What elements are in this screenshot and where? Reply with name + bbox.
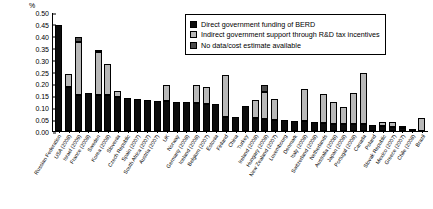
bar-segment-indirect: [360, 73, 367, 124]
bar-segment-indirect: [271, 99, 278, 120]
legend-swatch-indirect-icon: [190, 31, 197, 38]
y-axis-tick-label: 0.45: [35, 21, 53, 28]
legend-item-indirect: Indirect government support through R&D …: [190, 30, 380, 39]
bar-segment-indirect: [252, 100, 259, 118]
chart-legend: Direct government funding of BERD Indire…: [185, 14, 386, 55]
legend-label-nodata: No data/cost estimate available: [201, 41, 301, 50]
bar-chart: % 0.500.450.400.350.300.250.200.150.100.…: [0, 0, 433, 209]
bar-segment-direct: [301, 121, 308, 131]
bar-segment-indirect: [104, 64, 111, 95]
bar-segment-direct: [330, 124, 337, 131]
bar-stack: [85, 93, 92, 131]
y-axis-tick-label: 0.25: [35, 69, 53, 76]
bar-segment-direct: [55, 25, 62, 131]
bar-segment-direct: [154, 101, 161, 131]
bar-group: [64, 13, 74, 131]
y-axis-tick-label: 0.40: [35, 33, 53, 40]
y-axis-tick-label: 0.20: [35, 81, 53, 88]
bar-segment-direct: [124, 98, 131, 131]
bar-segment-direct: [271, 120, 278, 131]
bar-segment-direct: [340, 124, 347, 131]
bar-group: [142, 13, 152, 131]
bar-segment-indirect: [75, 42, 82, 96]
bar-segment-indirect: [261, 92, 268, 119]
legend-item-direct: Direct government funding of BERD: [190, 20, 380, 29]
bar-stack: [193, 85, 200, 131]
bar-segment-indirect: [340, 107, 347, 125]
bar-segment-indirect: [418, 118, 425, 131]
bar-segment-direct: [222, 117, 229, 131]
bar-segment-direct: [203, 104, 210, 131]
bar-stack: [154, 101, 161, 131]
bar-segment-direct: [193, 103, 200, 131]
bar-stack: [291, 121, 298, 131]
bar-stack: [252, 100, 259, 131]
legend-label-indirect: Indirect government support through R&D …: [201, 30, 380, 39]
bar-stack: [340, 107, 347, 132]
bar-segment-direct: [281, 120, 288, 131]
bar-segment-direct: [75, 95, 82, 131]
y-axis-tick-label: 0.30: [35, 57, 53, 64]
bar-group: [123, 13, 133, 131]
bar-segment-direct: [95, 95, 102, 131]
bar-group: [113, 13, 123, 131]
bar-stack: [144, 100, 151, 131]
bar-stack: [55, 25, 62, 131]
bar-group: [93, 13, 103, 131]
bar-segment-indirect: [350, 93, 357, 124]
bar-stack: [65, 74, 72, 131]
y-axis-tick-label: 0.35: [35, 45, 53, 52]
bar-segment-direct: [65, 87, 72, 131]
bar-stack: [360, 73, 367, 131]
bar-stack: [212, 104, 219, 131]
bar-stack: [163, 85, 170, 131]
bar-group: [172, 13, 182, 131]
bar-stack: [418, 118, 425, 131]
bar-segment-direct: [252, 118, 259, 131]
bar-group: [74, 13, 84, 131]
bar-segment-direct: [311, 122, 318, 131]
bar-segment-direct: [173, 102, 180, 131]
bar-segment-direct: [320, 123, 327, 131]
bar-stack: [242, 106, 249, 131]
bar-stack: [75, 37, 82, 131]
y-axis-tick-label: 0.15: [35, 93, 53, 100]
bar-stack: [350, 93, 357, 131]
y-axis-tick-label: 0.50: [35, 10, 53, 17]
bar-group: [388, 13, 398, 131]
bar-segment-direct: [350, 124, 357, 131]
bar-group: [152, 13, 162, 131]
bar-stack: [261, 85, 268, 131]
bar-segment-indirect: [320, 94, 327, 123]
bar-stack: [271, 99, 278, 131]
x-axis-label-slot: Austria (2007): [151, 133, 161, 209]
bar-segment-direct: [183, 102, 190, 131]
bar-group: [54, 13, 64, 131]
bar-segment-indirect: [163, 85, 170, 102]
y-axis-tick-label: 0.00: [35, 129, 53, 136]
bar-stack: [222, 75, 229, 131]
bar-group: [162, 13, 172, 131]
bar-segment-indirect: [65, 74, 72, 87]
legend-swatch-direct-icon: [190, 21, 197, 28]
bar-stack: [104, 64, 111, 131]
bar-stack: [134, 99, 141, 131]
bar-segment-indirect: [193, 85, 200, 103]
bar-segment-direct: [104, 95, 111, 131]
bar-segment-direct: [261, 119, 268, 131]
y-axis-tick-label: 0.10: [35, 105, 53, 112]
bar-stack: [311, 122, 318, 131]
bar-stack: [281, 120, 288, 131]
y-axis-unit-label: %: [29, 2, 35, 9]
bar-stack: [301, 89, 308, 131]
bar-group: [417, 13, 427, 131]
bar-stack: [203, 87, 210, 131]
bar-segment-direct: [163, 101, 170, 131]
bar-group: [407, 13, 417, 131]
bar-stack: [124, 98, 131, 131]
bar-segment-indirect: [222, 75, 229, 117]
bar-segment-indirect: [203, 87, 210, 104]
bar-segment-direct: [134, 99, 141, 131]
bar-segment-indirect: [301, 89, 308, 121]
bar-group: [133, 13, 143, 131]
